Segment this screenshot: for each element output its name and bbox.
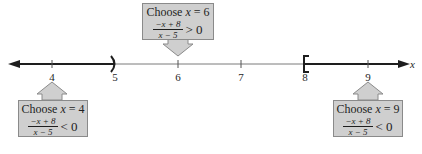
tick-label-9: 9 [360, 71, 376, 83]
inequality: −x + 8x − 5 > 0 [143, 19, 213, 40]
callout-test-6: Choose x = 6 −x + 8x − 5 > 0 [142, 3, 214, 40]
numerator: −x + 8 [153, 19, 182, 30]
numerator: −x + 8 [343, 116, 372, 127]
tick-label-5: 5 [107, 71, 123, 83]
tick-label-7: 7 [233, 71, 249, 83]
axis-variable-label: x [410, 58, 415, 70]
up-arrow-icon [353, 82, 383, 100]
denominator: x − 5 [156, 30, 179, 40]
tick-label-6: 6 [170, 71, 186, 83]
down-arrow-icon [163, 38, 193, 56]
left-arrow-icon [8, 60, 20, 68]
up-arrow-icon [37, 82, 67, 100]
tick-label-8: 8 [297, 71, 313, 83]
numerator: −x + 8 [28, 116, 57, 127]
inequality: −x + 8x − 5 < 0 [19, 116, 87, 137]
denominator: x − 5 [31, 127, 54, 137]
callout-title: Choose x = 6 [143, 5, 213, 19]
callout-title: Choose x = 9 [334, 102, 402, 116]
tick-label-4: 4 [44, 71, 60, 83]
callout-test-9: Choose x = 9 −x + 8x − 5 < 0 [333, 100, 403, 137]
denominator: x − 5 [346, 127, 369, 137]
relation: < 0 [376, 119, 393, 135]
relation: > 0 [186, 22, 203, 38]
inequality: −x + 8x − 5 < 0 [334, 116, 402, 137]
relation: < 0 [61, 119, 78, 135]
callout-test-4: Choose x = 4 −x + 8x − 5 < 0 [18, 100, 88, 137]
right-arrow-icon [398, 60, 410, 68]
callout-title: Choose x = 4 [19, 102, 87, 116]
